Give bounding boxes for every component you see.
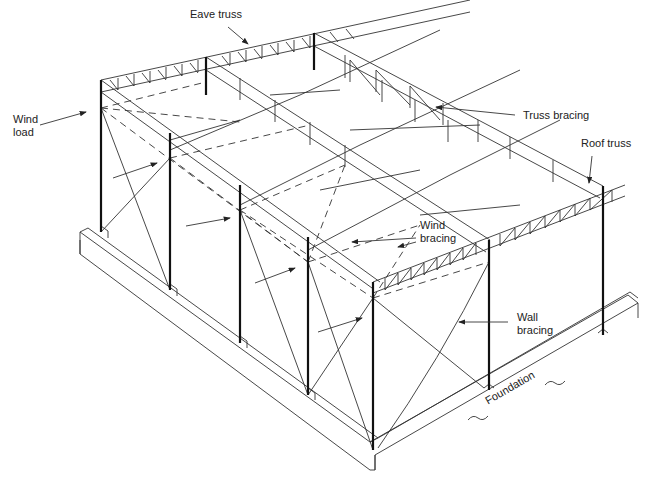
label-wall-bracing-line2: bracing (517, 324, 553, 337)
eave-truss (101, 0, 470, 92)
label-wind-load-line1: Wind (13, 113, 38, 126)
label-wind-load: Wind load (13, 113, 38, 139)
label-wall-bracing: Wall bracing (517, 311, 553, 337)
label-eave-truss: Eave truss (190, 8, 242, 21)
front-eave-truss (373, 185, 625, 293)
label-truss-bracing: Truss bracing (523, 109, 589, 122)
wind-load-arrows (40, 112, 362, 332)
columns (101, 33, 603, 450)
label-wind-bracing-line1: Wind (420, 219, 456, 232)
label-roof-truss: Roof truss (581, 137, 631, 150)
label-wall-bracing-line1: Wall (517, 311, 553, 324)
label-wind-bracing: Wind bracing (420, 219, 456, 245)
truss-bracing (170, 30, 560, 250)
building-frame-drawing (0, 0, 655, 483)
label-wind-bracing-line2: bracing (420, 232, 456, 245)
label-wind-load-line2: load (13, 126, 38, 139)
foundation-slab (80, 226, 638, 470)
label-leaders (228, 27, 592, 322)
